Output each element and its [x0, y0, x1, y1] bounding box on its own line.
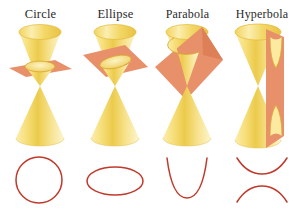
parabola-curve — [167, 158, 207, 198]
cone-diagram-circle — [3, 24, 78, 150]
cone-diagram-parabola — [150, 24, 225, 150]
conic-curve-circle — [3, 152, 78, 208]
conic-sections-figure: Circle — [0, 0, 302, 210]
conic-curve-hyperbola — [224, 152, 299, 208]
panel-label-circle: Circle — [3, 7, 78, 22]
panel-ellipse: Ellipse — [78, 0, 153, 210]
hyperbola-branch-lower — [237, 186, 287, 202]
ellipse-curve — [87, 167, 143, 195]
panel-label-parabola: Parabola — [150, 7, 225, 22]
hyperbola-branch-upper — [237, 158, 287, 174]
lower-nappe-parabola — [163, 86, 211, 146]
cone-diagram-ellipse — [78, 24, 153, 150]
panel-label-hyperbola: Hyperbola — [223, 7, 301, 22]
conic-curve-parabola — [150, 152, 225, 208]
intersection-circle — [25, 61, 55, 72]
panel-circle: Circle — [3, 0, 78, 210]
cone-diagram-hyperbola — [224, 24, 299, 150]
lower-nappe-ellipse — [91, 86, 139, 146]
circle-curve — [16, 157, 62, 203]
panel-hyperbola: Hyperbola — [224, 0, 299, 210]
lower-nappe-circle — [16, 86, 64, 146]
panel-label-ellipse: Ellipse — [78, 7, 153, 22]
panel-parabola: Parabola — [150, 0, 225, 210]
conic-curve-ellipse — [78, 152, 153, 208]
